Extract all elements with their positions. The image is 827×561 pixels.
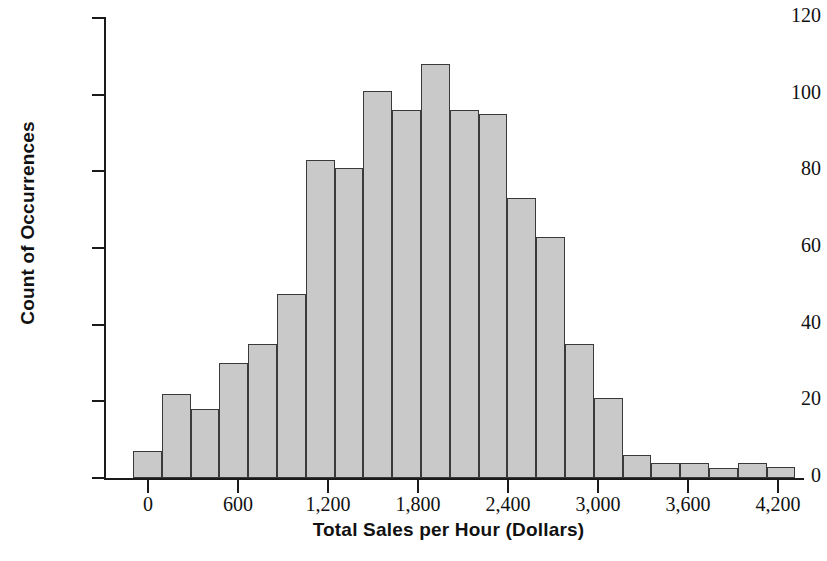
histogram-bar (450, 110, 479, 478)
y-axis-tick (92, 477, 104, 479)
histogram-bar (191, 409, 220, 478)
y-axis-tick (92, 247, 104, 249)
y-axis-tick-label: 40 (741, 311, 827, 334)
histogram-bar (277, 294, 306, 478)
histogram-bar (248, 344, 277, 478)
histogram-bar (335, 168, 364, 479)
x-axis-title: Total Sales per Hour (Dollars) (0, 519, 827, 541)
x-axis-tick (507, 480, 509, 493)
histogram-bar (623, 455, 652, 478)
y-axis-tick-label: 80 (741, 157, 827, 180)
histogram-bar (507, 198, 536, 478)
plot-area: 020406080100120 06001,2001,8002,4003,000… (0, 0, 827, 561)
histogram-bar (479, 114, 508, 478)
histogram-bar (565, 344, 594, 478)
histogram-bar (536, 237, 565, 479)
histogram-bar (594, 398, 623, 479)
histogram-bar (651, 463, 680, 478)
histogram-bar (421, 64, 450, 478)
histogram-bar (306, 160, 335, 478)
y-axis-tick (92, 170, 104, 172)
x-axis-tick (327, 480, 329, 493)
y-axis-title: Count of Occurrences (17, 63, 39, 383)
y-axis-tick-label: 20 (741, 387, 827, 410)
x-axis-tick (147, 480, 149, 493)
histogram-bar (709, 468, 738, 478)
x-axis-tick (687, 480, 689, 493)
histogram-chart: 020406080100120 06001,2001,8002,4003,000… (0, 0, 827, 561)
y-axis-tick-label: 0 (741, 464, 827, 487)
y-axis-tick (92, 17, 104, 19)
y-axis-tick-label: 100 (741, 81, 827, 104)
x-axis-tick (777, 480, 779, 493)
y-axis-tick (92, 324, 104, 326)
y-axis-tick (92, 400, 104, 402)
x-axis-title-text: Total Sales per Hour (Dollars) (243, 519, 585, 540)
y-axis-tick (92, 94, 104, 96)
x-axis-tick-label: 4,200 (718, 493, 827, 516)
bars-layer (0, 0, 827, 561)
histogram-bar (680, 463, 709, 478)
histogram-bar (392, 110, 421, 478)
y-axis-tick-label: 60 (741, 234, 827, 257)
histogram-bar (133, 451, 162, 478)
x-axis-tick (237, 480, 239, 493)
histogram-bar (363, 91, 392, 478)
x-axis-tick (417, 480, 419, 493)
histogram-bar (162, 394, 191, 478)
histogram-bar (219, 363, 248, 478)
x-axis-tick (597, 480, 599, 493)
y-axis-tick-label: 120 (741, 4, 827, 27)
